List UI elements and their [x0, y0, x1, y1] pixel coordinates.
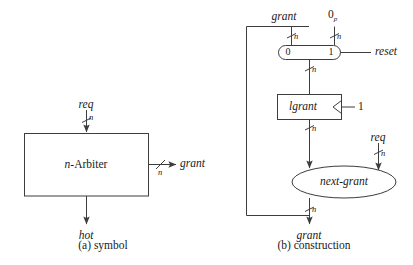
- caption-a: (a) symbol: [78, 240, 128, 252]
- reset-label: reset: [375, 46, 397, 58]
- caption-b: (b) construction: [277, 240, 350, 252]
- req-label-a: req: [79, 99, 94, 111]
- mux-port-1-label: 1: [329, 47, 334, 57]
- zero-p-subscript: p: [334, 15, 338, 23]
- mux-in1-width-label: n: [337, 32, 341, 41]
- lgrant-out-width-label: n: [312, 124, 316, 133]
- req-label-b: req: [371, 132, 386, 144]
- grant-feedback-label: grant: [272, 11, 297, 23]
- grant-label-a: grant: [180, 158, 205, 170]
- req-width-label-b: n: [381, 149, 385, 158]
- zero-p-label: 0p: [328, 9, 337, 23]
- mux-out-width-label: n: [312, 65, 316, 74]
- mux-port-0-label: 0: [286, 47, 291, 57]
- arbiter-block-label-rest: -Arbiter: [70, 158, 107, 170]
- next-grant-out-width-label: n: [312, 205, 316, 214]
- figure-arbiter: req n n-Arbiter n grant hot (a) symbol g…: [0, 0, 413, 265]
- lgrant-label: lgrant: [289, 101, 317, 113]
- req-width-label-a: n: [89, 113, 93, 122]
- next-grant-label: next-grant: [320, 176, 368, 188]
- grant-width-label-a: n: [158, 168, 162, 177]
- mux-in0-width-label: n: [294, 32, 298, 41]
- lgrant-clock-label: 1: [358, 101, 364, 113]
- arbiter-block-label: n-Arbiter: [65, 159, 108, 171]
- diagram-canvas: [0, 0, 413, 265]
